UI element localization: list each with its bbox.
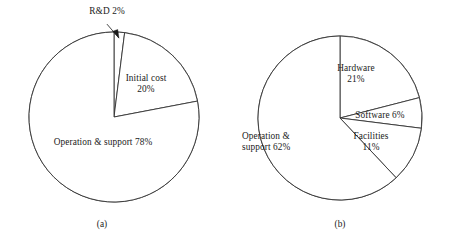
slice-label-facilities-value: 11%: [333, 142, 409, 153]
slice-label-operation-support-a-text: Operation & support 78%: [18, 137, 188, 148]
pie-chart-panel-a: R&D 2% Initial cost 20% Operation & supp…: [0, 0, 228, 244]
pie-chart-b-svg: [228, 0, 450, 244]
figure-root: R&D 2% Initial cost 20% Operation & supp…: [0, 0, 450, 244]
slice-label-initial-cost: Initial cost 20%: [96, 73, 196, 96]
pie-chart-a-svg: [0, 0, 228, 244]
panel-caption-a: (a): [0, 219, 216, 229]
slice-label-software-text: Software 6%: [332, 110, 428, 121]
slice-label-hardware-name: Hardware: [316, 63, 396, 74]
slice-label-facilities-name: Facilities: [333, 131, 409, 142]
panel-caption-b: (b): [229, 219, 450, 229]
slice-label-rnd-text: R&D 2%: [57, 6, 157, 17]
slice-label-software: Software 6%: [332, 110, 428, 121]
slice-label-operation-support-b-value: support 62%: [242, 142, 342, 153]
slice-label-hardware: Hardware 21%: [316, 63, 396, 86]
slice-label-initial-cost-value: 20%: [96, 84, 196, 95]
slice-label-operation-support-b: Operation & support 62%: [242, 131, 342, 154]
slice-label-operation-support-a: Operation & support 78%: [18, 137, 188, 148]
slice-label-rnd: R&D 2%: [57, 6, 157, 17]
slice-label-initial-cost-name: Initial cost: [96, 73, 196, 84]
pie-a-slice-group: [29, 32, 199, 202]
slice-label-facilities: Facilities 11%: [333, 131, 409, 154]
pie-chart-panel-b: Hardware 21% Software 6% Facilities 11% …: [228, 0, 450, 244]
slice-label-operation-support-b-name: Operation &: [242, 131, 342, 142]
slice-label-hardware-value: 21%: [316, 74, 396, 85]
